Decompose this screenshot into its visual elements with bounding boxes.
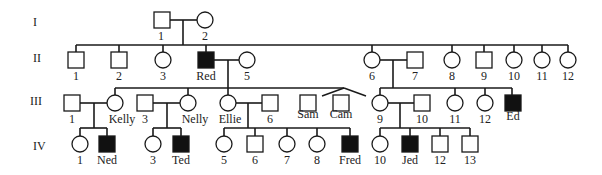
label-III-3: 3 [142,112,148,126]
female-symbol-III-9 [372,95,388,111]
label-IV-6: 6 [252,153,258,167]
label-III-12: 12 [479,112,491,126]
label-II-red: Red [196,69,215,83]
female-symbol-III-12 [477,95,493,111]
female-symbol-II-12 [560,52,576,68]
male-symbol-II-7 [407,52,423,68]
female-symbol-IV-3 [145,136,161,152]
generation-label-IV: IV [33,139,46,153]
female-symbol-II-5 [239,52,255,68]
label-III-11: 11 [449,112,461,126]
label-IV-5: 5 [221,153,227,167]
label-I-2: 2 [202,29,208,43]
male-symbol-III-6 [262,95,278,111]
male-symbol-II-2 [111,52,127,68]
label-IV-13: 13 [464,153,476,167]
generation-IV: 1 Ned 3 Ted 5 6 7 8 Fred 10 Jed 12 13 [72,136,478,167]
male-symbol-IV-6 [247,136,263,152]
label-II-11: 11 [536,69,548,83]
female-symbol-IV-5 [216,136,232,152]
label-IV-1: 1 [77,153,83,167]
label-jed: Jed [402,153,418,167]
male-symbol-I-1 [154,12,170,28]
pedigree-chart: I II III IV [0,0,602,175]
female-symbol-ellie [220,95,236,111]
label-fred: Fred [339,153,361,167]
male-symbol-IV-13 [462,136,478,152]
label-ned: Ned [97,153,117,167]
label-ellie: Ellie [219,112,242,126]
label-IV-3: 3 [150,153,156,167]
generation-label-II: II [33,51,41,65]
label-III-9: 9 [377,112,383,126]
label-ted: Ted [172,153,190,167]
female-symbol-II-6 [364,52,380,68]
label-II-8: 8 [449,69,455,83]
female-symbol-II-3 [155,52,171,68]
label-ed: Ed [506,109,519,123]
label-II-1: 1 [73,69,79,83]
label-IV-12: 12 [434,153,446,167]
female-symbol-IV-8 [309,136,325,152]
generation-label-III: III [30,94,42,108]
male-symbol-II-1 [68,52,84,68]
label-IV-7: 7 [284,153,290,167]
female-symbol-nelly [180,95,196,111]
male-symbol-III-10 [414,95,430,111]
female-symbol-II-10 [506,52,522,68]
generation-II: 1 2 3 Red 5 6 7 8 9 10 11 12 [68,52,576,83]
pedigree-lines [76,20,568,136]
female-symbol-kelly [107,95,123,111]
female-symbol-IV-1 [72,136,88,152]
generation-label-I: I [33,15,37,29]
affected-male-symbol-jed [402,136,418,152]
affected-male-symbol-fred [342,136,358,152]
label-II-6: 6 [369,69,375,83]
label-II-2: 2 [116,69,122,83]
female-symbol-III-11 [447,95,463,111]
male-symbol-III-1 [64,95,80,111]
label-IV-10: 10 [374,153,386,167]
label-III-1: 1 [69,112,75,126]
generation-III: 1 Kelly 3 Nelly Ellie 6 Sam Cam 9 10 11 … [64,95,521,126]
male-symbol-II-9 [476,52,492,68]
label-II-10: 10 [508,69,520,83]
label-II-7: 7 [412,69,418,83]
female-symbol-IV-7 [279,136,295,152]
label-nelly: Nelly [182,112,209,126]
male-symbol-III-3 [137,95,153,111]
male-symbol-IV-12 [432,136,448,152]
label-II-12: 12 [562,69,574,83]
label-III-6: 6 [267,112,273,126]
affected-male-symbol-ned [99,136,115,152]
female-symbol-I-2 [197,12,213,28]
label-II-5: 5 [244,69,250,83]
affected-male-symbol-red [198,52,214,68]
label-cam: Cam [330,107,353,121]
female-symbol-II-8 [444,52,460,68]
label-IV-8: 8 [314,153,320,167]
label-I-1: 1 [158,29,164,43]
affected-male-symbol-ted [173,136,189,152]
female-symbol-II-11 [534,52,550,68]
female-symbol-IV-10 [372,136,388,152]
label-III-10: 10 [416,112,428,126]
label-kelly: Kelly [109,112,136,126]
label-II-9: 9 [481,69,487,83]
label-II-3: 3 [160,69,166,83]
label-sam: Sam [297,107,319,121]
